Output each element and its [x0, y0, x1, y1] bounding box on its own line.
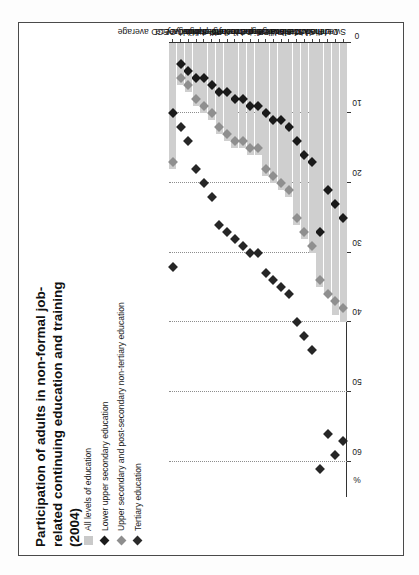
- category-axis-line: [169, 42, 347, 43]
- legend-item-label: All levels of education: [83, 448, 93, 531]
- legend-item-label: Tertiary education: [133, 463, 143, 531]
- x-axis-tick: [347, 391, 351, 392]
- x-axis-tick-label: 40: [352, 308, 361, 318]
- x-axis-tick-label: 30: [352, 238, 361, 248]
- figure-frame: Participation of adults in non-formal jo…: [18, 22, 404, 556]
- x-axis-tick: [347, 252, 351, 253]
- legend-diamond-icon: [116, 536, 126, 546]
- legend-item-tertiary: Tertiary education: [131, 302, 145, 545]
- legend-diamond-icon: [100, 536, 110, 546]
- x-axis-tick-label: 50: [352, 378, 361, 388]
- chart-legend: All levels of education Lower upper seco…: [81, 302, 147, 545]
- x-axis-tick: [347, 321, 351, 322]
- bar-all-levels: [285, 43, 292, 197]
- data-point-dark: [222, 227, 232, 237]
- x-axis-tick-label: 10: [352, 98, 361, 108]
- data-point-dark: [284, 290, 294, 300]
- data-point-dark: [245, 248, 255, 258]
- legend-item-all-levels: All levels of education: [81, 302, 95, 545]
- category-label: OECD average: [118, 27, 176, 37]
- data-point-dark: [191, 164, 201, 174]
- x-axis-tick: [347, 112, 351, 113]
- x-axis-tick: [347, 42, 351, 43]
- bar-all-levels: [324, 43, 331, 294]
- x-axis-tick-label: 0: [355, 31, 360, 41]
- data-point-dark: [199, 178, 209, 188]
- data-point-dark: [330, 450, 340, 460]
- data-point-dark: [176, 122, 186, 132]
- rotated-chart-stage: Participation of adults in non-formal jo…: [19, 23, 403, 555]
- data-point-dark: [230, 234, 240, 244]
- bar-all-levels: [316, 43, 323, 287]
- bar-all-levels: [169, 43, 176, 169]
- bar-all-levels: [309, 43, 316, 253]
- legend-square-icon: [84, 536, 93, 545]
- data-point-dark: [307, 345, 317, 355]
- data-point-dark: [292, 317, 302, 327]
- gridline: [169, 391, 347, 392]
- bar-all-levels: [332, 43, 339, 315]
- data-point-dark: [238, 241, 248, 251]
- axis-unit-label: %: [353, 475, 360, 485]
- legend-item-label: Lower upper secondary education: [100, 402, 110, 531]
- data-point-dark: [299, 331, 309, 341]
- data-point-dark: [315, 464, 325, 474]
- legend-item-upper-secondary: Upper secondary and post-secondary non-t…: [114, 302, 128, 545]
- x-axis-tick-label: 60: [352, 447, 361, 457]
- x-axis-tick-label: 20: [352, 168, 361, 178]
- bar-all-levels: [293, 43, 300, 225]
- bar-all-levels: [255, 43, 262, 155]
- x-axis-tick: [347, 461, 351, 462]
- data-point-dark: [168, 262, 178, 272]
- legend-item-label: Upper secondary and post-secondary non-t…: [116, 302, 126, 531]
- data-point-dark: [269, 276, 279, 286]
- legend-item-lower-upper-secondary: Lower upper secondary education: [98, 302, 112, 545]
- gridline: [169, 461, 347, 462]
- data-point-dark: [183, 136, 193, 146]
- x-axis-tick: [347, 182, 351, 183]
- data-point-dark: [276, 283, 286, 293]
- chart-title: Participation of adults in non-formal jo…: [33, 247, 84, 547]
- gridline: [169, 321, 347, 322]
- legend-diamond-icon: [133, 536, 143, 546]
- data-point-dark: [214, 220, 224, 230]
- figure-page: Participation of adults in non-formal jo…: [0, 0, 419, 575]
- data-point-dark: [207, 192, 217, 202]
- plot-area: 0102030405060 SwedenDenmarkUnited States…: [169, 35, 369, 543]
- axis-area: [169, 43, 347, 497]
- data-point-dark: [323, 429, 333, 439]
- bar-all-levels: [340, 43, 347, 322]
